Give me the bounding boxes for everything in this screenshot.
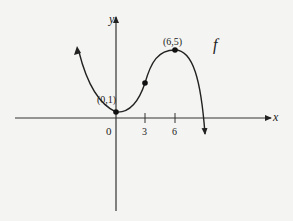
function-name-label: f: [213, 36, 220, 54]
point-max-label: (6,5): [163, 36, 182, 48]
function-curve: [79, 50, 205, 134]
function-graph: y x 0 3 6 (0,1) (6,5) f: [0, 0, 293, 221]
origin-label: 0: [106, 125, 112, 137]
point-min-label: (0,1): [97, 94, 116, 106]
point-local-min: [113, 109, 119, 115]
tick-label-3: 3: [142, 126, 147, 137]
tick-label-6: 6: [172, 126, 177, 137]
point-inflection: [142, 80, 148, 86]
point-local-max: [172, 47, 178, 53]
y-axis-label: y: [108, 12, 115, 26]
x-axis-label: x: [272, 110, 279, 124]
